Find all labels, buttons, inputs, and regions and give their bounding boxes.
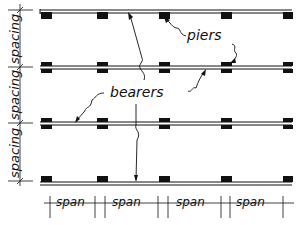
span-label-1: span bbox=[56, 195, 85, 209]
framing-plan-diagram: spacing spacing spacing span span span s… bbox=[0, 0, 304, 225]
span-label-3: span bbox=[176, 195, 205, 209]
spacing-label-1: spacing bbox=[7, 14, 22, 64]
bearer-2 bbox=[40, 66, 292, 69]
piers-row-4 bbox=[41, 176, 293, 182]
spacing-labels: spacing spacing spacing bbox=[7, 14, 22, 178]
spacing-label-3: spacing bbox=[7, 128, 22, 178]
span-labels: span span span span bbox=[56, 195, 265, 209]
bearer-3 bbox=[40, 122, 292, 125]
span-label-2: span bbox=[112, 195, 141, 209]
bearer-4 bbox=[40, 182, 292, 185]
piers-label: piers bbox=[186, 27, 221, 43]
spacing-label-2: spacing bbox=[7, 70, 22, 120]
bearers-label: bearers bbox=[110, 84, 164, 100]
piers-row-2 bbox=[41, 62, 293, 73]
span-label-4: span bbox=[236, 195, 265, 209]
